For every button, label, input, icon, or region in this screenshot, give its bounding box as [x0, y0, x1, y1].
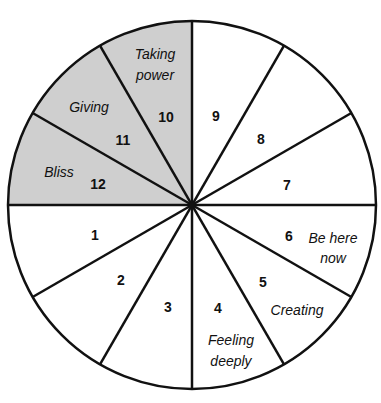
sector-label: Feeling — [208, 332, 254, 348]
sector-label: power — [135, 67, 175, 83]
sector-label: Taking — [135, 46, 176, 62]
sector-label: Be here — [308, 230, 357, 246]
sector-label: Giving — [69, 99, 109, 115]
sector-number: 5 — [259, 274, 267, 290]
sector-number: 4 — [214, 300, 222, 316]
sector-number: 7 — [283, 177, 291, 193]
sector-label: Bliss — [44, 164, 74, 180]
sector-number: 10 — [158, 109, 174, 125]
sector-number: 9 — [212, 108, 220, 124]
sector-number: 2 — [117, 272, 125, 288]
wheel-diagram: 1234Feelingdeeply5Creating6Be herenow789… — [0, 0, 381, 403]
sector-number: 12 — [90, 176, 106, 192]
wheel-hub — [189, 202, 195, 208]
sector-label: Creating — [271, 302, 324, 318]
sector-number: 8 — [257, 131, 265, 147]
sector-label: deeply — [210, 353, 252, 369]
sector-number: 1 — [91, 227, 99, 243]
sector-label: now — [320, 250, 347, 266]
sector-number: 11 — [116, 132, 131, 148]
sector-number: 6 — [285, 228, 293, 244]
sector-number: 3 — [164, 299, 172, 315]
